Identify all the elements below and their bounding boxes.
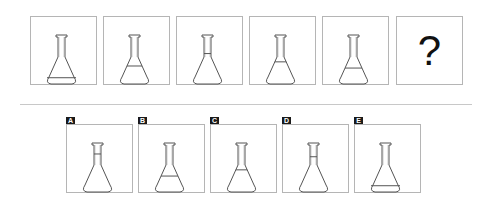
sequence-cell-4 (249, 16, 316, 85)
option-a[interactable] (66, 124, 133, 193)
flask-icon (104, 17, 171, 86)
sequence-cell-3 (176, 16, 243, 85)
question-mark: ? (397, 17, 462, 84)
sequence-cell-unknown: ? (396, 16, 463, 85)
option-c[interactable] (210, 124, 277, 193)
sequence-cell-2 (103, 16, 170, 85)
flask-icon (139, 125, 206, 194)
flask-icon (250, 17, 317, 86)
flask-icon (67, 125, 134, 194)
divider (20, 104, 472, 105)
flask-icon (283, 125, 350, 194)
flask-icon (355, 125, 422, 194)
flask-icon (31, 17, 98, 86)
flask-icon (323, 17, 390, 86)
option-e[interactable] (354, 124, 421, 193)
flask-icon (177, 17, 244, 86)
flask-icon (211, 125, 278, 194)
option-d[interactable] (282, 124, 349, 193)
option-b[interactable] (138, 124, 205, 193)
sequence-cell-5 (322, 16, 389, 85)
sequence-cell-1 (30, 16, 97, 85)
